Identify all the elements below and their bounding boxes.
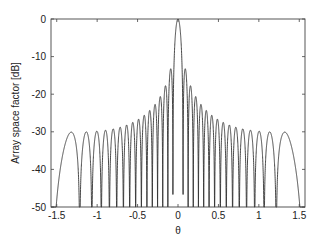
plot-frame bbox=[51, 19, 305, 207]
x-tick-label: -1 bbox=[93, 210, 102, 221]
y-tick-label: -10 bbox=[32, 51, 47, 62]
x-axis-label: θ bbox=[175, 225, 181, 236]
x-tick-label: 1 bbox=[256, 210, 262, 221]
y-tick-label: -30 bbox=[32, 126, 47, 137]
curve-layer bbox=[51, 19, 305, 207]
array-factor-chart: -1.5-1-0.500.511.5 0-10-20-30-40-50 θ Ar… bbox=[0, 0, 324, 246]
x-tick-label: 0 bbox=[175, 210, 181, 221]
y-tick-label: -20 bbox=[32, 89, 47, 100]
y-tick-label: -50 bbox=[32, 202, 47, 213]
x-tick-labels: -1.5-1-0.500.511.5 bbox=[48, 210, 307, 221]
x-tick-label: -1.5 bbox=[48, 210, 66, 221]
y-tick-label: -40 bbox=[32, 164, 47, 175]
ticks-layer bbox=[51, 19, 305, 207]
y-tick-label: 0 bbox=[40, 14, 46, 25]
y-axis-label: Array space factor [dB] bbox=[10, 62, 21, 164]
array-factor-curve bbox=[51, 19, 305, 207]
x-tick-label: -0.5 bbox=[129, 210, 147, 221]
x-tick-label: 1.5 bbox=[292, 210, 306, 221]
y-tick-labels: 0-10-20-30-40-50 bbox=[32, 14, 47, 213]
x-tick-label: 0.5 bbox=[211, 210, 225, 221]
